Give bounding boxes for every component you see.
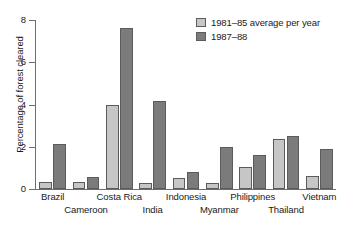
y-axis-tick: [29, 62, 35, 63]
legend-swatch-icon: [196, 32, 206, 41]
bar-brazil-series-1: [39, 182, 52, 189]
forest-cleared-bar-chart: Percentage of forest cleared 02468 Brazi…: [0, 0, 343, 228]
plot-area: 02468: [35, 20, 336, 189]
bars-layer: [36, 20, 336, 189]
bar-india-series-1: [139, 183, 152, 189]
bar-vietnam-series-2: [320, 149, 333, 189]
y-axis-tick-label: 4: [13, 100, 26, 110]
bar-myanmar-series-2: [220, 147, 233, 189]
bar-thailand-series-1: [273, 139, 286, 189]
bar-philippines-series-1: [239, 167, 252, 189]
bar-costa-rica-series-1: [106, 105, 119, 190]
bar-myanmar-series-1: [206, 183, 219, 189]
x-axis-label-vietnam: Vietnam: [274, 191, 343, 202]
x-axis-label-thailand: Thailand: [241, 204, 331, 215]
bar-brazil-series-2: [53, 144, 66, 189]
bar-thailand-series-2: [287, 136, 300, 189]
y-axis-tick-label: 8: [13, 15, 26, 25]
bar-indonesia-series-1: [173, 178, 186, 189]
y-axis-tick-label: 2: [13, 142, 26, 152]
bar-india-series-2: [153, 101, 166, 189]
bar-cameroon-series-1: [73, 182, 86, 189]
y-axis-title: Percentage of forest cleared: [13, 0, 27, 189]
bar-philippines-series-2: [253, 155, 266, 189]
legend-item-2: 1987–88: [196, 30, 341, 42]
bar-costa-rica-series-2: [120, 28, 133, 189]
chart-legend: 1981–85 average per year1987–88: [196, 16, 341, 44]
legend-label: 1981–85 average per year: [211, 17, 320, 28]
bar-cameroon-series-2: [87, 177, 100, 189]
y-axis-tick-label: 6: [13, 57, 26, 67]
legend-swatch-icon: [196, 18, 206, 27]
bar-vietnam-series-1: [306, 176, 319, 189]
legend-item-1: 1981–85 average per year: [196, 16, 341, 28]
y-axis-tick: [29, 105, 35, 106]
bar-indonesia-series-2: [187, 172, 200, 189]
y-axis-tick: [29, 147, 35, 148]
x-axis-labels: BrazilCameroonCosta RicaIndiaIndonesiaMy…: [35, 190, 336, 226]
legend-label: 1987–88: [211, 31, 247, 42]
y-axis-tick: [29, 20, 35, 21]
